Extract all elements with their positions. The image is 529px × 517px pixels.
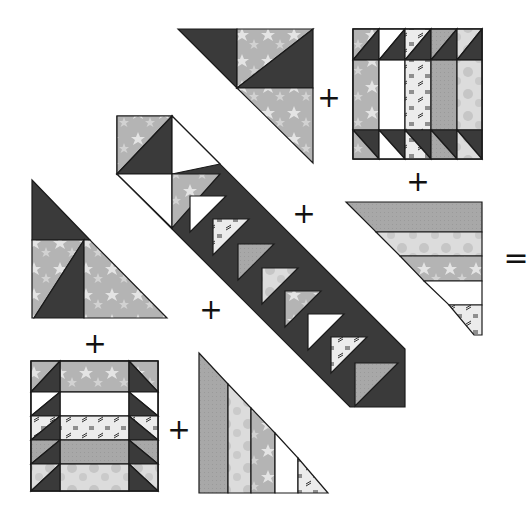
plus-sign-left-lower: + (199, 296, 222, 324)
equals-sign-right: = (503, 243, 528, 273)
plus-sign-top: + (317, 84, 340, 112)
plus-sign-bottom: + (167, 416, 190, 444)
bottom-strip-triangle (199, 353, 328, 493)
bottom-left-block (31, 361, 158, 491)
plus-sign-left-below: + (83, 330, 106, 358)
plus-sign-top-right-below: + (406, 168, 429, 196)
top-right-block (353, 29, 482, 159)
center-diagonal-strip (117, 116, 405, 407)
plus-sign-center: + (292, 200, 315, 228)
